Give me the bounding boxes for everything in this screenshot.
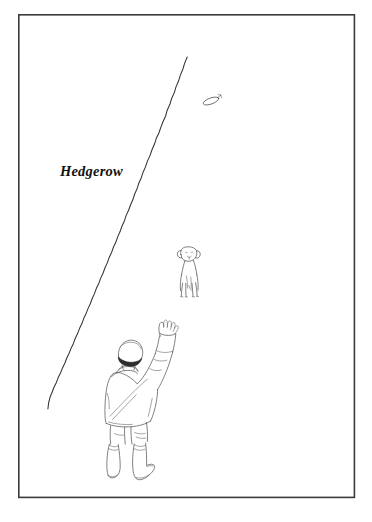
hedgerow-label: Hedgerow [60,163,123,180]
illustration-canvas: Hedgerow [0,0,372,522]
illustration-artwork [0,0,372,522]
illustration-border [19,15,355,498]
